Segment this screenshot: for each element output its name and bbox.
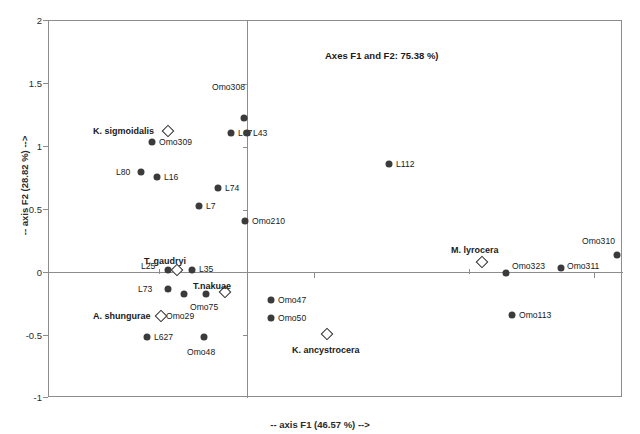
- point-label: Omo309: [159, 138, 192, 147]
- data-point[interactable]: [503, 270, 510, 277]
- axis-tick: [243, 147, 248, 148]
- data-point[interactable]: [228, 130, 235, 137]
- marker-open-diamond: [162, 125, 175, 138]
- y-tick-label--0.5: -0.5: [20, 330, 42, 341]
- marker-filled-circle: [215, 185, 222, 192]
- point-label: Omo308: [212, 83, 245, 92]
- axis-tick: [159, 269, 160, 274]
- y-tick-label-0: 0: [28, 267, 42, 278]
- data-point[interactable]: [244, 130, 251, 137]
- data-point[interactable]: [203, 291, 210, 298]
- marker-filled-circle: [386, 161, 393, 168]
- plot-area: Axes F1 and F2: 75.38 %) Omo308 L67 L43 …: [48, 20, 622, 397]
- marker-open-diamond: [321, 328, 334, 341]
- point-label: Omo323: [512, 262, 545, 271]
- species-label: K. sigmoidalis: [93, 127, 154, 136]
- species-label: M. lyrocera: [451, 246, 499, 255]
- marker-filled-circle: [149, 139, 156, 146]
- marker-filled-circle: [196, 203, 203, 210]
- point-label: Omo75: [190, 303, 218, 312]
- marker-filled-circle: [503, 270, 510, 277]
- marker-filled-circle: [558, 265, 565, 272]
- point-label: L7: [206, 202, 216, 211]
- data-point[interactable]: [242, 218, 249, 225]
- horizontal-zero-axis: [49, 272, 623, 273]
- axes-variance-annotation: Axes F1 and F2: 75.38 %): [325, 50, 439, 61]
- point-label: Omo210: [252, 217, 285, 226]
- y-tick-mark: [43, 397, 48, 398]
- species-point[interactable]: [478, 258, 487, 267]
- data-point[interactable]: [165, 286, 172, 293]
- point-label: Omo48: [187, 348, 215, 357]
- axis-tick: [243, 210, 248, 211]
- point-label: L73: [138, 285, 152, 294]
- data-point[interactable]: [558, 265, 565, 272]
- point-label: Omo50: [278, 314, 306, 323]
- marker-filled-circle: [154, 174, 161, 181]
- scatter-plot-figure: 2 1.5 1 0.5 0 -0.5 -1 -- axis F2 (28.82 …: [0, 0, 640, 434]
- species-label: A. shungurae: [93, 312, 151, 321]
- point-label: L43: [253, 129, 267, 138]
- data-point[interactable]: [215, 185, 222, 192]
- chart-title: [0, 0, 640, 1]
- x-axis-title: -- axis F1 (46.57 %) -->: [0, 419, 640, 430]
- marker-filled-circle: [165, 286, 172, 293]
- y-tick-label--1: -1: [24, 392, 42, 403]
- point-label: Omo113: [519, 311, 551, 320]
- y-tick-label-2: 2: [28, 15, 42, 26]
- species-point[interactable]: [157, 312, 166, 321]
- species-point[interactable]: [173, 266, 182, 275]
- y-tick-label-1: 1: [28, 141, 42, 152]
- data-point[interactable]: [181, 291, 188, 298]
- data-point[interactable]: [201, 334, 208, 341]
- data-point[interactable]: [614, 252, 621, 259]
- data-point[interactable]: [138, 169, 145, 176]
- point-label: Omo47: [278, 296, 306, 305]
- data-point[interactable]: [509, 312, 516, 319]
- species-label: T. gaudryi: [144, 257, 186, 266]
- point-label: L80: [116, 168, 130, 177]
- data-point[interactable]: [386, 161, 393, 168]
- data-point[interactable]: [268, 297, 275, 304]
- marker-filled-circle: [241, 115, 248, 122]
- species-label: K. ancystrocera: [292, 346, 360, 355]
- data-point[interactable]: [189, 267, 196, 274]
- marker-filled-circle: [144, 334, 151, 341]
- marker-filled-circle: [181, 291, 188, 298]
- axis-tick: [469, 269, 470, 274]
- point-label: L112: [396, 160, 414, 169]
- marker-filled-circle: [614, 252, 621, 259]
- axis-tick: [243, 335, 248, 336]
- marker-filled-circle: [242, 218, 249, 225]
- data-point[interactable]: [154, 174, 161, 181]
- marker-filled-circle: [138, 169, 145, 176]
- data-point[interactable]: [149, 139, 156, 146]
- data-point[interactable]: [268, 315, 275, 322]
- marker-filled-circle: [228, 130, 235, 137]
- data-point[interactable]: [196, 203, 203, 210]
- data-point[interactable]: [144, 334, 151, 341]
- species-point[interactable]: [323, 330, 332, 339]
- point-label: Omo29: [166, 312, 194, 321]
- y-axis-title: -- axis F2 (28.82 %) -->: [19, 116, 30, 256]
- point-label: Omo311: [567, 262, 599, 271]
- y-tick-label-1.5: 1.5: [24, 78, 42, 89]
- point-label: L16: [164, 173, 178, 182]
- axis-tick: [314, 273, 315, 278]
- marker-filled-circle: [203, 291, 210, 298]
- species-point[interactable]: [164, 127, 173, 136]
- marker-filled-circle: [189, 267, 196, 274]
- marker-filled-circle: [201, 334, 208, 341]
- marker-filled-circle: [509, 312, 516, 319]
- species-label: T.nakuae: [193, 282, 231, 291]
- marker-filled-circle: [244, 130, 251, 137]
- data-point[interactable]: [241, 115, 248, 122]
- axis-tick: [594, 273, 595, 278]
- marker-open-diamond: [155, 310, 168, 323]
- point-label: L35: [199, 265, 213, 274]
- point-label: L627: [154, 333, 173, 342]
- marker-filled-circle: [268, 297, 275, 304]
- point-label: L74: [225, 184, 239, 193]
- marker-open-diamond: [476, 256, 489, 269]
- point-label: Omo310: [582, 237, 615, 246]
